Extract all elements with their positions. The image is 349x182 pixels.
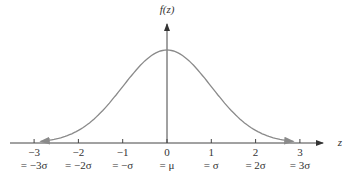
tick-label: 3 — [297, 146, 303, 158]
tick-label: 2 — [253, 146, 259, 158]
tick-label: −3 — [28, 146, 40, 158]
tick-label: −2 — [73, 146, 85, 158]
density-curve-right — [167, 50, 293, 141]
sigma-label: = 2σ — [245, 159, 265, 171]
sigma-label: = −2σ — [65, 159, 92, 171]
sigma-label: = 3σ — [290, 159, 310, 171]
x-ticks — [34, 139, 300, 143]
x-axis-label: z — [338, 136, 342, 148]
sigma-label: = σ — [204, 159, 219, 171]
tick-label: 0 — [164, 146, 170, 158]
sigma-label: = μ — [160, 159, 175, 171]
y-axis-label: f(z) — [160, 3, 175, 15]
tick-label: −1 — [117, 146, 129, 158]
density-curve-left — [41, 50, 167, 141]
sigma-label: = −3σ — [21, 159, 48, 171]
tick-label: 1 — [209, 146, 215, 158]
sigma-label: = −σ — [112, 159, 133, 171]
